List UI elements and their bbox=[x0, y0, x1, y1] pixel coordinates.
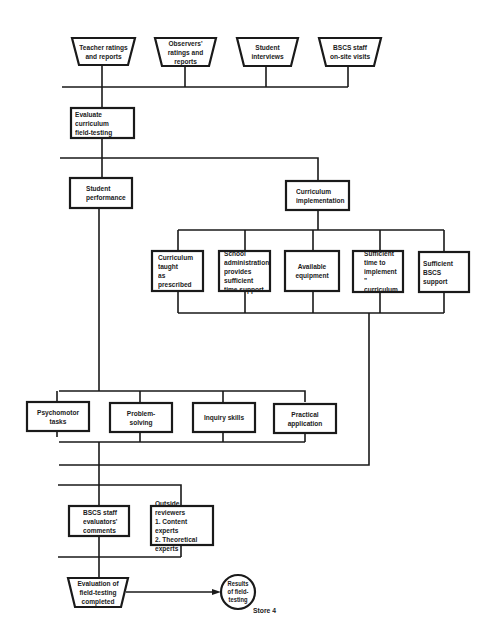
arrowhead-icon bbox=[212, 589, 221, 595]
label-bscs-evaluators: BSCS staff evaluators' comments bbox=[83, 507, 120, 535]
label-factor-1: Curriculum taught as prescribed bbox=[158, 252, 199, 290]
label-teacher: Teacher ratings and reports bbox=[78, 39, 130, 64]
label-results: Results of field- testing bbox=[225, 577, 251, 607]
implementation-bus-top bbox=[178, 210, 444, 251]
input-connectors bbox=[62, 65, 348, 87]
label-bscs-visits: BSCS staff on-site visits bbox=[325, 39, 376, 65]
branch-bus bbox=[60, 138, 318, 181]
label-factor-4: Sufficient time to implement " curriculu… bbox=[364, 252, 401, 291]
label-student-performance: Student performance bbox=[86, 179, 127, 207]
label-factor-3: Available equipment bbox=[290, 252, 334, 290]
label-inquiry: Inquiry skills bbox=[199, 404, 250, 431]
label-psychomotor: Psychomotor tasks bbox=[31, 403, 85, 430]
label-problem-solving: Problem-solving bbox=[116, 404, 167, 431]
label-students: Student interviews bbox=[242, 39, 292, 65]
label-factor-5: Sufficient BSCS support bbox=[423, 253, 466, 291]
measures-bus-bottom bbox=[57, 431, 305, 485]
label-practical: Practical application bbox=[278, 405, 332, 432]
store-note: Store 4 bbox=[253, 606, 276, 615]
label-observers: Observers' ratings and reports bbox=[160, 38, 210, 66]
implementation-bus-bottom bbox=[59, 291, 444, 465]
label-evaluate: Evaluate curriculum field-testing bbox=[75, 109, 126, 137]
label-outside-reviewers: Outside reviewers 1. Content experts 2. … bbox=[155, 507, 206, 544]
label-completion: Evaluation of field-testing completed bbox=[73, 579, 122, 606]
measures-bus-top bbox=[57, 391, 305, 402]
label-factor-2: School administration provides sufficien… bbox=[224, 252, 265, 290]
flowchart-canvas bbox=[0, 0, 497, 639]
label-curriculum-implementation: Curriculum implementation bbox=[296, 182, 341, 209]
